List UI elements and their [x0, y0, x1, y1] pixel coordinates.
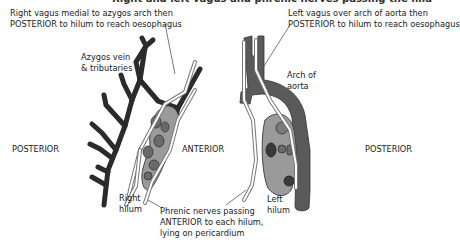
phrenic-label-line3: lying on pericardium — [160, 228, 244, 239]
anterior-label: ANTERIOR — [182, 144, 224, 155]
phrenic-label-line2: ANTERIOR to each hilum, — [160, 217, 263, 228]
azygos-label-line2: & tributaries — [81, 63, 132, 74]
right-hilum-label-line1: Right — [119, 193, 141, 204]
left-hilum-label-line2: hilum — [267, 205, 290, 216]
left-vagus-label-line2: POSTERIOR to hilum to reach oesophagus — [288, 19, 460, 30]
right-hilum-label-line2: hilum — [119, 204, 142, 215]
left-hilum-label-line1: Left — [267, 194, 282, 205]
azygos-label-line1: Azygos vein — [81, 52, 130, 63]
phrenic-label-line1: Phrenic nerves passing — [160, 206, 255, 217]
arch-of-aorta-label-line2: aorta — [287, 81, 309, 92]
left-hilum — [262, 114, 296, 195]
posterior-right-label: POSTERIOR — [365, 144, 412, 155]
posterior-left-label: POSTERIOR — [12, 144, 59, 155]
right-hilum — [142, 106, 179, 190]
arch-of-aorta-label-line1: Arch of — [287, 70, 316, 81]
right-vagus-label-line1: Right vagus medial to azygos arch then — [10, 8, 173, 19]
right-vagus-label-line2: POSTERIOR to hilum to reach oesophagus — [10, 19, 182, 30]
left-vagus-label-line1: Left vagus over arch of aorta then — [288, 8, 428, 19]
